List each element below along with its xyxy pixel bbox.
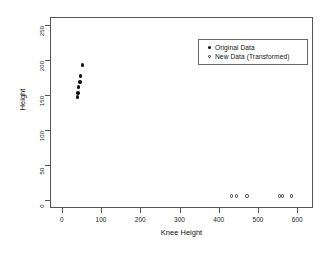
y-tick-label: 100 [39,129,45,143]
data-point [76,91,80,95]
y-tick [45,165,50,166]
y-tick-label: 50 [39,164,45,178]
data-point [78,80,82,84]
open-circle-icon [204,55,215,58]
legend-entry-new: New Data (Transformed) [204,52,303,61]
filled-circle-icon [204,46,215,49]
legend-entry-original: Original Data [204,43,303,52]
data-point [245,194,248,197]
y-tick [45,60,50,61]
x-tick-label: 300 [168,216,192,223]
x-axis-title: Knee Height [50,228,313,237]
y-tick-label: 200 [39,59,45,73]
y-tick [45,95,50,96]
y-tick-label: 0 [39,199,45,213]
legend-label: Original Data [215,44,255,51]
y-tick-label: 250 [39,24,45,38]
x-tick-label: 400 [207,216,231,223]
y-tick-label: 150 [39,94,45,108]
x-tick-label: 600 [285,216,309,223]
legend: Original Data New Data (Transformed) [198,39,308,65]
data-point [281,194,284,197]
x-tick-label: 500 [246,216,270,223]
y-axis-title: Height [18,80,27,120]
x-tick [140,208,141,213]
data-point [77,85,81,89]
x-tick-label: 0 [50,216,74,223]
scatter-plot: 050100150200250 0100200300400500600 Heig… [0,0,329,253]
x-tick [62,208,63,213]
y-tick [45,200,50,201]
x-tick-label: 200 [128,216,152,223]
x-tick [180,208,181,213]
data-point [290,194,293,197]
y-tick [45,25,50,26]
data-point [230,194,233,197]
x-tick-label: 100 [89,216,113,223]
x-tick [258,208,259,213]
y-tick [45,130,50,131]
x-tick [101,208,102,213]
x-tick [297,208,298,213]
data-point [235,194,238,197]
x-tick [219,208,220,213]
legend-label: New Data (Transformed) [215,53,290,60]
